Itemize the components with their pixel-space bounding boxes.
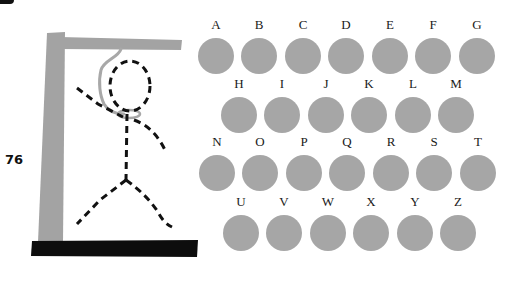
letter-disc[interactable] xyxy=(198,38,234,74)
letter-label: B xyxy=(241,18,277,32)
letter-label: E xyxy=(372,18,408,32)
score-counter: 76 xyxy=(5,152,23,167)
letter-button-t[interactable]: T xyxy=(460,135,496,191)
letter-label: R xyxy=(373,135,409,149)
letter-button-a[interactable]: A xyxy=(198,18,234,74)
letter-disc[interactable] xyxy=(328,38,364,74)
letter-button-p[interactable]: P xyxy=(286,135,322,191)
letter-disc[interactable] xyxy=(266,215,302,251)
letter-disc[interactable] xyxy=(285,38,321,74)
letter-disc[interactable] xyxy=(310,215,346,251)
letter-button-d[interactable]: D xyxy=(328,18,364,74)
letter-label: W xyxy=(310,195,346,209)
letter-label: H xyxy=(221,77,257,91)
letter-label: Z xyxy=(440,195,476,209)
figure-right-leg xyxy=(126,180,172,227)
letter-label: O xyxy=(242,135,278,149)
gallows-post xyxy=(38,32,65,242)
letter-button-e[interactable]: E xyxy=(372,18,408,74)
letter-disc[interactable] xyxy=(415,38,451,74)
letter-button-i[interactable]: I xyxy=(264,77,300,133)
letter-label: N xyxy=(199,135,235,149)
letter-disc[interactable] xyxy=(353,215,389,251)
letter-label: V xyxy=(266,195,302,209)
letter-button-l[interactable]: L xyxy=(395,77,431,133)
letter-disc[interactable] xyxy=(223,215,259,251)
gallows-drawing xyxy=(0,0,200,285)
letter-button-w[interactable]: W xyxy=(310,195,346,251)
letter-label: I xyxy=(264,77,300,91)
letter-button-f[interactable]: F xyxy=(415,18,451,74)
letter-disc[interactable] xyxy=(351,97,387,133)
letter-button-b[interactable]: B xyxy=(241,18,277,74)
letter-label: Q xyxy=(329,135,365,149)
letter-disc[interactable] xyxy=(264,97,300,133)
letter-button-y[interactable]: Y xyxy=(397,195,433,251)
letter-button-m[interactable]: M xyxy=(438,77,474,133)
letter-label: M xyxy=(438,77,474,91)
letter-label: L xyxy=(395,77,431,91)
letter-button-j[interactable]: J xyxy=(308,77,344,133)
letter-button-r[interactable]: R xyxy=(373,135,409,191)
figure-right-arm xyxy=(134,120,166,152)
letter-label: A xyxy=(198,18,234,32)
letter-disc[interactable] xyxy=(395,97,431,133)
letter-label: X xyxy=(353,195,389,209)
letter-disc[interactable] xyxy=(416,155,452,191)
letter-disc[interactable] xyxy=(459,38,495,74)
letter-label: T xyxy=(460,135,496,149)
letter-label: C xyxy=(285,18,321,32)
letter-button-g[interactable]: G xyxy=(459,18,495,74)
letter-label: K xyxy=(351,77,387,91)
letter-label: Y xyxy=(397,195,433,209)
letter-button-z[interactable]: Z xyxy=(440,195,476,251)
letter-disc[interactable] xyxy=(372,38,408,74)
letter-label: S xyxy=(416,135,452,149)
letter-button-v[interactable]: V xyxy=(266,195,302,251)
hangman-game: 76 A B C D E F G H I J K xyxy=(0,0,508,285)
letter-disc[interactable] xyxy=(438,97,474,133)
letter-disc[interactable] xyxy=(397,215,433,251)
letter-disc[interactable] xyxy=(241,38,277,74)
letter-label: P xyxy=(286,135,322,149)
letter-button-o[interactable]: O xyxy=(242,135,278,191)
figure-head xyxy=(110,61,150,111)
figure-left-leg xyxy=(77,180,126,224)
letter-label: F xyxy=(415,18,451,32)
stick-figure xyxy=(77,61,172,227)
letter-label: U xyxy=(223,195,259,209)
letter-button-q[interactable]: Q xyxy=(329,135,365,191)
letter-button-k[interactable]: K xyxy=(351,77,387,133)
letter-disc[interactable] xyxy=(308,97,344,133)
letter-disc[interactable] xyxy=(199,155,235,191)
letter-button-c[interactable]: C xyxy=(285,18,321,74)
gallows-base xyxy=(31,240,198,257)
letter-button-s[interactable]: S xyxy=(416,135,452,191)
letter-disc[interactable] xyxy=(286,155,322,191)
letter-disc[interactable] xyxy=(221,97,257,133)
letter-disc[interactable] xyxy=(242,155,278,191)
letter-button-u[interactable]: U xyxy=(223,195,259,251)
letter-button-h[interactable]: H xyxy=(221,77,257,133)
letter-disc[interactable] xyxy=(329,155,365,191)
letter-disc[interactable] xyxy=(440,215,476,251)
letter-label: D xyxy=(328,18,364,32)
letter-button-n[interactable]: N xyxy=(199,135,235,191)
letter-disc[interactable] xyxy=(373,155,409,191)
letter-label: G xyxy=(459,18,495,32)
letter-button-x[interactable]: X xyxy=(353,195,389,251)
letter-disc[interactable] xyxy=(460,155,496,191)
letter-label: J xyxy=(308,77,344,91)
figure-body xyxy=(126,114,127,180)
